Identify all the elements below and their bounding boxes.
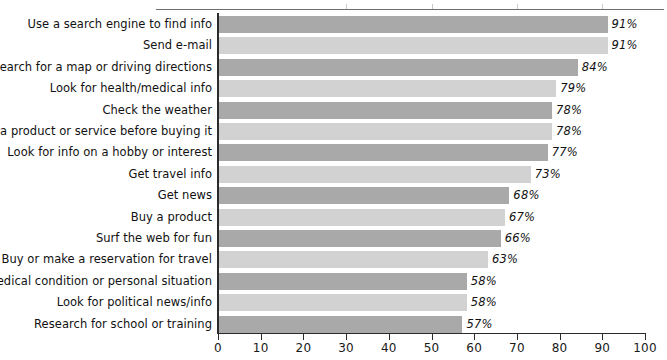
bar-value-label: 58% [471,294,497,311]
bar-value-label: 78% [556,102,582,119]
x-axis-tick [346,334,347,340]
x-axis-tick-label: 50 [412,341,452,355]
bar [219,251,488,268]
category-label: Search for a map or driving directions [0,59,212,76]
bar-value-label: 58% [471,273,497,290]
bar-value-label: 68% [513,187,539,204]
bar-row: Research a product or service before buy… [0,123,667,140]
category-label: Look for health/medical info [50,80,212,97]
x-axis-tick [261,334,262,340]
top-rule-tick [517,4,518,9]
bar [219,273,467,290]
bar-value-label: 91% [612,37,638,54]
x-axis-tick [389,334,390,340]
bar [219,80,556,97]
bar-value-label: 77% [552,144,578,161]
x-axis-tick-label: 60 [454,341,494,355]
bar-row: Look for health/medical info79% [0,80,667,97]
x-axis-tick-label: 40 [369,341,409,355]
horizontal-bar-chart: 0102030405060708090100 Use a search engi… [0,0,667,360]
bar-row: Get travel info73% [0,166,667,183]
category-label: Use a search engine to find info [28,16,212,33]
bar-row: Get news68% [0,187,667,204]
x-axis-tick [602,334,603,340]
bar-value-label: 63% [492,251,518,268]
bar-row: Look for political news/info58% [0,294,667,311]
top-rule-tick [346,4,347,9]
bar-value-label: 91% [612,16,638,33]
x-axis-tick-label: 100 [625,341,665,355]
x-axis-tick [474,334,475,340]
bar-value-label: 67% [509,209,535,226]
bar-row: Use a search engine to find info91% [0,16,667,33]
category-label: Research a product or service before buy… [0,123,212,140]
category-label: Buy a product [131,209,212,226]
x-axis-tick [218,334,219,340]
x-axis-tick-label: 80 [540,341,580,355]
bar-value-label: 73% [535,166,561,183]
x-axis-tick-label: 10 [241,341,281,355]
x-axis-tick [560,334,561,340]
x-axis-tick-label: 30 [326,341,366,355]
category-label: Look for political news/info [57,294,212,311]
bar-value-label: 57% [466,316,492,333]
category-label: Buy or make a reservation for travel [1,251,212,268]
bar-row: Check the weather78% [0,102,667,119]
bar-row: Buy a product67% [0,209,667,226]
bar [219,187,509,204]
bar-value-label: 84% [582,59,608,76]
bar [219,144,548,161]
bar-value-label: 78% [556,123,582,140]
top-rule-tick [602,4,603,9]
x-axis-tick-label: 20 [283,341,323,355]
category-label: Get news [158,187,212,204]
x-axis-tick [517,334,518,340]
top-rule-tick [432,4,433,9]
bar [219,102,552,119]
bar-value-label: 79% [560,80,586,97]
bar-row: Surf the web for fun66% [0,230,667,247]
category-label: Research for school or training [34,316,212,333]
x-axis-tick [645,334,646,340]
x-axis-tick-label: 70 [497,341,537,355]
bar [219,230,501,247]
bar-value-label: 66% [505,230,531,247]
category-label: Send e-mail [143,37,212,54]
bar [219,59,578,76]
bar [219,166,531,183]
category-label: Check the weather [102,102,212,119]
bar [219,294,467,311]
bar-row: Send e-mail91% [0,37,667,54]
bar [219,123,552,140]
x-axis-tick-label: 0 [198,341,238,355]
bar-row: Support for medical condition or persona… [0,273,667,290]
category-label: Surf the web for fun [96,230,212,247]
bar-row: Buy or make a reservation for travel63% [0,251,667,268]
bar [219,316,462,333]
category-label: Get travel info [129,166,213,183]
top-rule-divider [156,9,664,10]
bar-row: Look for info on a hobby or interest77% [0,144,667,161]
x-axis-tick-label: 90 [582,341,622,355]
x-axis-tick [303,334,304,340]
x-axis-tick [432,334,433,340]
category-label: Support for medical condition or persona… [0,273,212,290]
bar [219,16,608,33]
bar [219,209,505,226]
bar [219,37,608,54]
category-label: Look for info on a hobby or interest [7,144,212,161]
bar-row: Research for school or training57% [0,316,667,333]
bar-row: Search for a map or driving directions84… [0,59,667,76]
